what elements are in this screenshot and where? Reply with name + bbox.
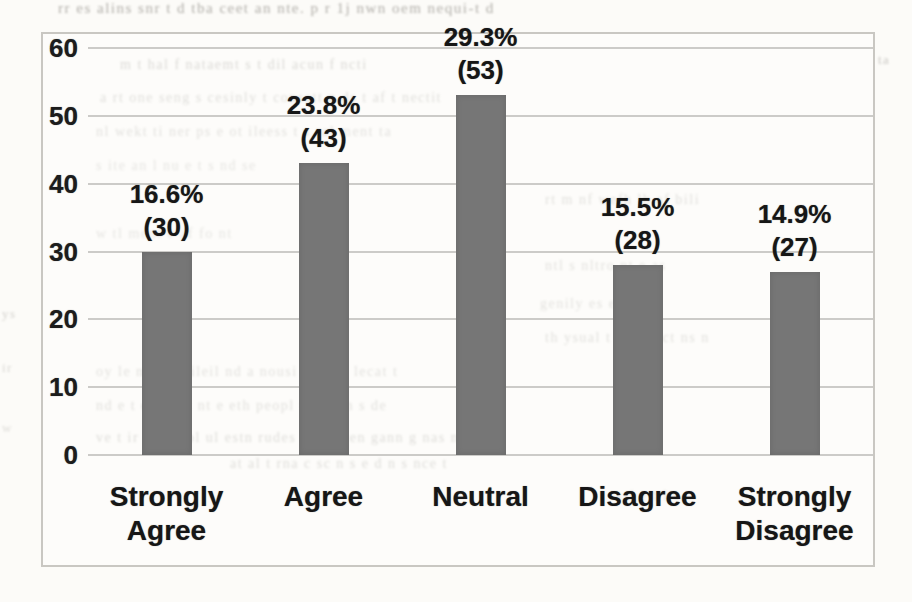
y-axis-tick-label: 30 xyxy=(30,236,78,268)
bar-count-label: (43) xyxy=(239,122,409,155)
bar-value-label: 15.5%(28) xyxy=(553,191,723,257)
bar-count-label: (28) xyxy=(553,224,723,257)
bar-percent-label: 23.8% xyxy=(239,89,409,122)
y-axis-tick-label: 50 xyxy=(30,100,78,132)
bar-percent-label: 16.6% xyxy=(82,178,252,211)
y-axis-tick-label: 40 xyxy=(30,168,78,200)
bar-disagree xyxy=(613,265,663,455)
bar-agree xyxy=(299,163,349,455)
x-category-label: Strongly Disagree xyxy=(715,480,875,548)
bar-count-label: (27) xyxy=(710,231,880,264)
bar-strongly-disagree xyxy=(770,272,820,455)
y-axis-tick-label: 0 xyxy=(30,439,78,471)
bar-percent-label: 15.5% xyxy=(553,191,723,224)
bar-value-label: 16.6%(30) xyxy=(82,178,252,244)
scanned-document-page: rr es alins snr t d tba ceet an nte. p r… xyxy=(0,0,912,602)
bar-strongly-agree xyxy=(142,252,192,456)
bar-value-label: 14.9%(27) xyxy=(710,198,880,264)
y-axis-tick-label: 10 xyxy=(30,371,78,403)
bar-percent-label: 14.9% xyxy=(710,198,880,231)
bar-count-label: (30) xyxy=(82,211,252,244)
survey-bar-chart: 010203040506016.6%(30)Strongly Agree23.8… xyxy=(0,0,912,602)
bar-count-label: (53) xyxy=(396,54,566,87)
bar-neutral xyxy=(456,95,506,455)
y-axis-tick-label: 20 xyxy=(30,303,78,335)
bar-value-label: 23.8%(43) xyxy=(239,89,409,155)
x-category-label: Disagree xyxy=(558,480,718,514)
x-category-label: Strongly Agree xyxy=(87,480,247,548)
bar-percent-label: 29.3% xyxy=(396,21,566,54)
x-category-label: Agree xyxy=(244,480,404,514)
x-category-label: Neutral xyxy=(401,480,561,514)
bar-value-label: 29.3%(53) xyxy=(396,21,566,87)
y-axis-tick-label: 60 xyxy=(30,32,78,64)
